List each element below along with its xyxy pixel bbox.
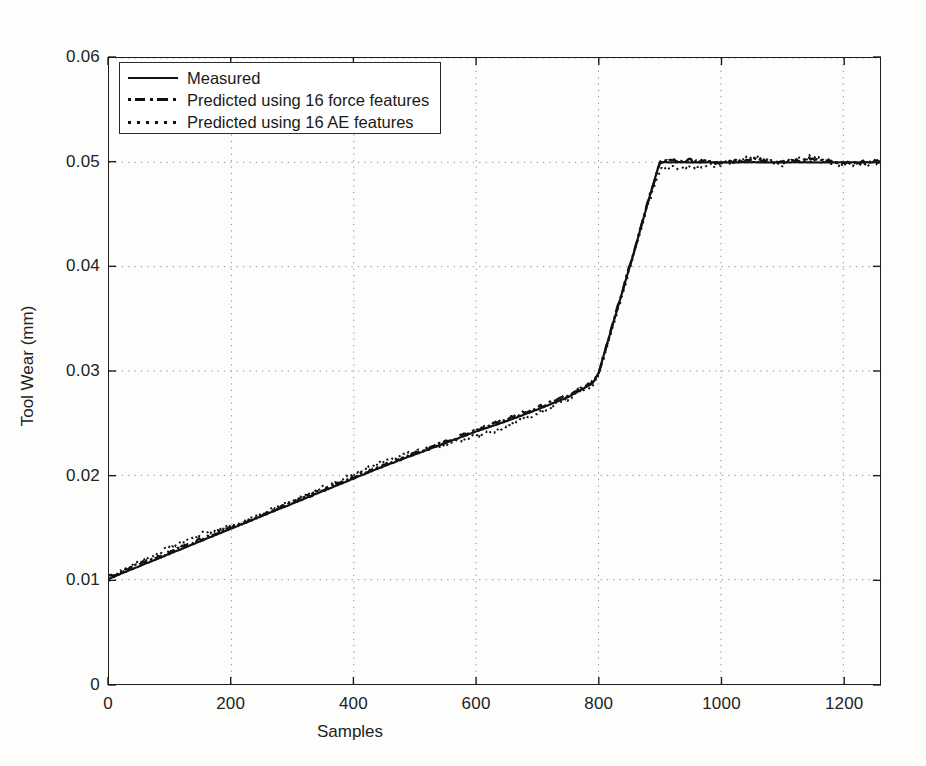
x-tick-label: 0: [103, 694, 113, 714]
x-tick-label: 400: [339, 694, 368, 714]
y-tick-label: 0.03: [66, 361, 100, 381]
y-tick-label: 0.02: [66, 466, 100, 486]
x-axis-title: Samples: [0, 722, 926, 742]
series-path-3: [109, 155, 880, 581]
legend-line-dotted-icon: [128, 115, 178, 129]
data-curves: [109, 58, 880, 684]
legend-label-force: Predicted using 16 force features: [187, 90, 429, 110]
figure-canvas: 00.010.020.030.040.050.06 Tool Wear (mm)…: [0, 0, 926, 766]
legend-label-ae: Predicted using 16 AE features: [187, 112, 414, 132]
x-tick-label: 1200: [825, 694, 864, 714]
y-tick-label: 0.05: [66, 152, 100, 172]
x-tick-label: 200: [216, 694, 245, 714]
legend-item-measured: Measured: [128, 67, 434, 89]
legend-label-measured: Measured: [187, 68, 260, 88]
legend-item-force: Predicted using 16 force features: [128, 89, 434, 111]
series-path-1: [109, 162, 880, 579]
y-axis-title: Tool Wear (mm): [18, 276, 38, 456]
y-tick-label: 0: [90, 675, 100, 695]
plot-area: [108, 57, 881, 685]
series-path-2: [109, 157, 880, 576]
legend-line-dashdot-icon: [128, 93, 178, 107]
x-tick-label: 1000: [702, 694, 741, 714]
legend-box: Measured Predicted using 16 force featur…: [119, 62, 441, 134]
x-axis-tick-labels: 020040060080010001200: [0, 694, 926, 724]
legend-line-solid-icon: [128, 71, 178, 85]
y-tick-label: 0.01: [66, 570, 100, 590]
legend-item-ae: Predicted using 16 AE features: [128, 111, 434, 133]
grid-lines: [109, 58, 880, 684]
x-tick-label: 600: [462, 694, 491, 714]
x-tick-label: 800: [584, 694, 613, 714]
y-tick-label: 0.06: [66, 47, 100, 67]
x-axis-title-text: Samples: [317, 722, 383, 742]
y-tick-label: 0.04: [66, 256, 100, 276]
